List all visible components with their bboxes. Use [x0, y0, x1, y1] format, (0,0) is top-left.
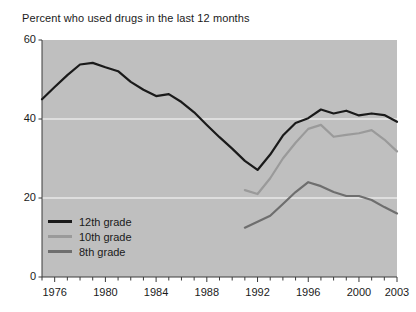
plot-area: [0, 0, 416, 312]
legend-item: 8th grade: [48, 244, 132, 259]
legend-item: 12th grade: [48, 214, 132, 229]
x-tick-label: 1988: [187, 286, 227, 298]
y-tick-label: 60: [14, 33, 36, 45]
x-tick-label: 1976: [35, 286, 75, 298]
legend-swatch-icon: [48, 220, 72, 223]
x-tick-label: 1996: [288, 286, 328, 298]
x-tick-label: 2003: [377, 286, 416, 298]
legend-swatch-icon: [48, 250, 72, 253]
y-tick-label: 20: [14, 191, 36, 203]
legend-swatch-icon: [48, 235, 72, 238]
y-tick-label: 40: [14, 112, 36, 124]
legend-item-label: 8th grade: [79, 246, 125, 258]
x-tick-label: 1980: [85, 286, 125, 298]
x-tick-label: 1992: [238, 286, 278, 298]
legend-item-label: 10th grade: [79, 231, 132, 243]
chart-legend: 12th grade10th grade8th grade: [48, 214, 132, 259]
chart-figure: Percent who used drugs in the last 12 mo…: [0, 0, 416, 312]
legend-item-label: 12th grade: [79, 216, 132, 228]
x-tick-label: 1984: [136, 286, 176, 298]
y-tick-label: 0: [14, 270, 36, 282]
x-tick-label: 2000: [339, 286, 379, 298]
legend-item: 10th grade: [48, 229, 132, 244]
